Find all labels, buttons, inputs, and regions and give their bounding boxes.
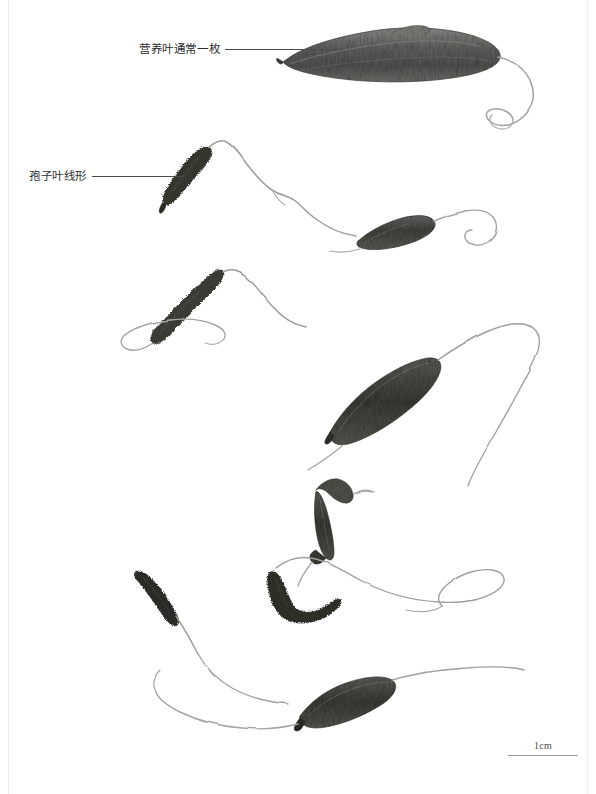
- specimen-4-blade: [330, 358, 441, 445]
- annotation-sterile-frond: 营养叶通常一枚: [139, 44, 343, 56]
- scale-bar-label: 1cm: [508, 741, 578, 751]
- scale-bar-rule: [508, 755, 578, 756]
- specimen-7-stipe: [276, 557, 504, 611]
- specimen-5-blade: [310, 479, 353, 564]
- specimen-1-apex: [276, 58, 283, 64]
- specimen-2-stipe: [209, 141, 356, 236]
- scale-bar: 1cm: [508, 741, 578, 756]
- specimen-6-sporophyll: [133, 571, 177, 625]
- specimen-3-sporophyll: [150, 269, 223, 343]
- specimen-4-stipe: [308, 324, 539, 486]
- specimen-7-sporophyll: [267, 571, 341, 623]
- specimen-5-stipe: [298, 490, 374, 586]
- annotation-sterile-frond-leader-line: [225, 49, 343, 50]
- specimen-1-stipe: [486, 57, 533, 129]
- annotation-sterile-frond-text: 营养叶通常一枚: [139, 44, 220, 56]
- specimen-6-stipe: [176, 616, 288, 704]
- herbarium-specimen-plate: 营养叶通常一枚 孢子叶线形 1cm: [0, 0, 596, 794]
- specimen-illustration: [0, 0, 596, 794]
- annotation-sporophyll-text: 孢子叶线形: [29, 171, 87, 183]
- annotation-sporophyll: 孢子叶线形: [29, 171, 184, 183]
- annotation-sporophyll-leader-line: [92, 176, 184, 177]
- specimen-2-blade: [357, 216, 435, 250]
- specimen-8-blade: [300, 677, 396, 728]
